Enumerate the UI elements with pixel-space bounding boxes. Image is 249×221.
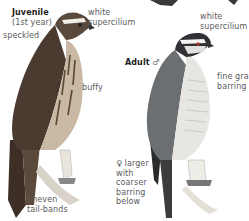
adult-barring-label: fine gray barring — [217, 72, 249, 91]
juvenile-subtitle: (1st year) — [12, 18, 52, 28]
juvenile-hawk — [8, 13, 95, 218]
juvenile-tail-label: uneven tail-bands — [27, 195, 68, 214]
wing-fragment-top — [150, 0, 238, 6]
juvenile-supercilium-label: white supercilium — [88, 8, 135, 27]
juvenile-title: Juvenile — [12, 8, 49, 18]
male-symbol-icon: ♂ — [153, 58, 160, 67]
juvenile-buffy-label: buffy — [82, 83, 103, 93]
female-note-label: ♀ larger with coarser barring below — [116, 159, 149, 207]
adult-title: Adult ♂ — [125, 58, 160, 68]
adult-title-text: Adult — [125, 58, 150, 67]
juvenile-speckled-label: speckled — [3, 31, 39, 41]
adult-supercilium-label: white supercilium — [200, 12, 247, 31]
